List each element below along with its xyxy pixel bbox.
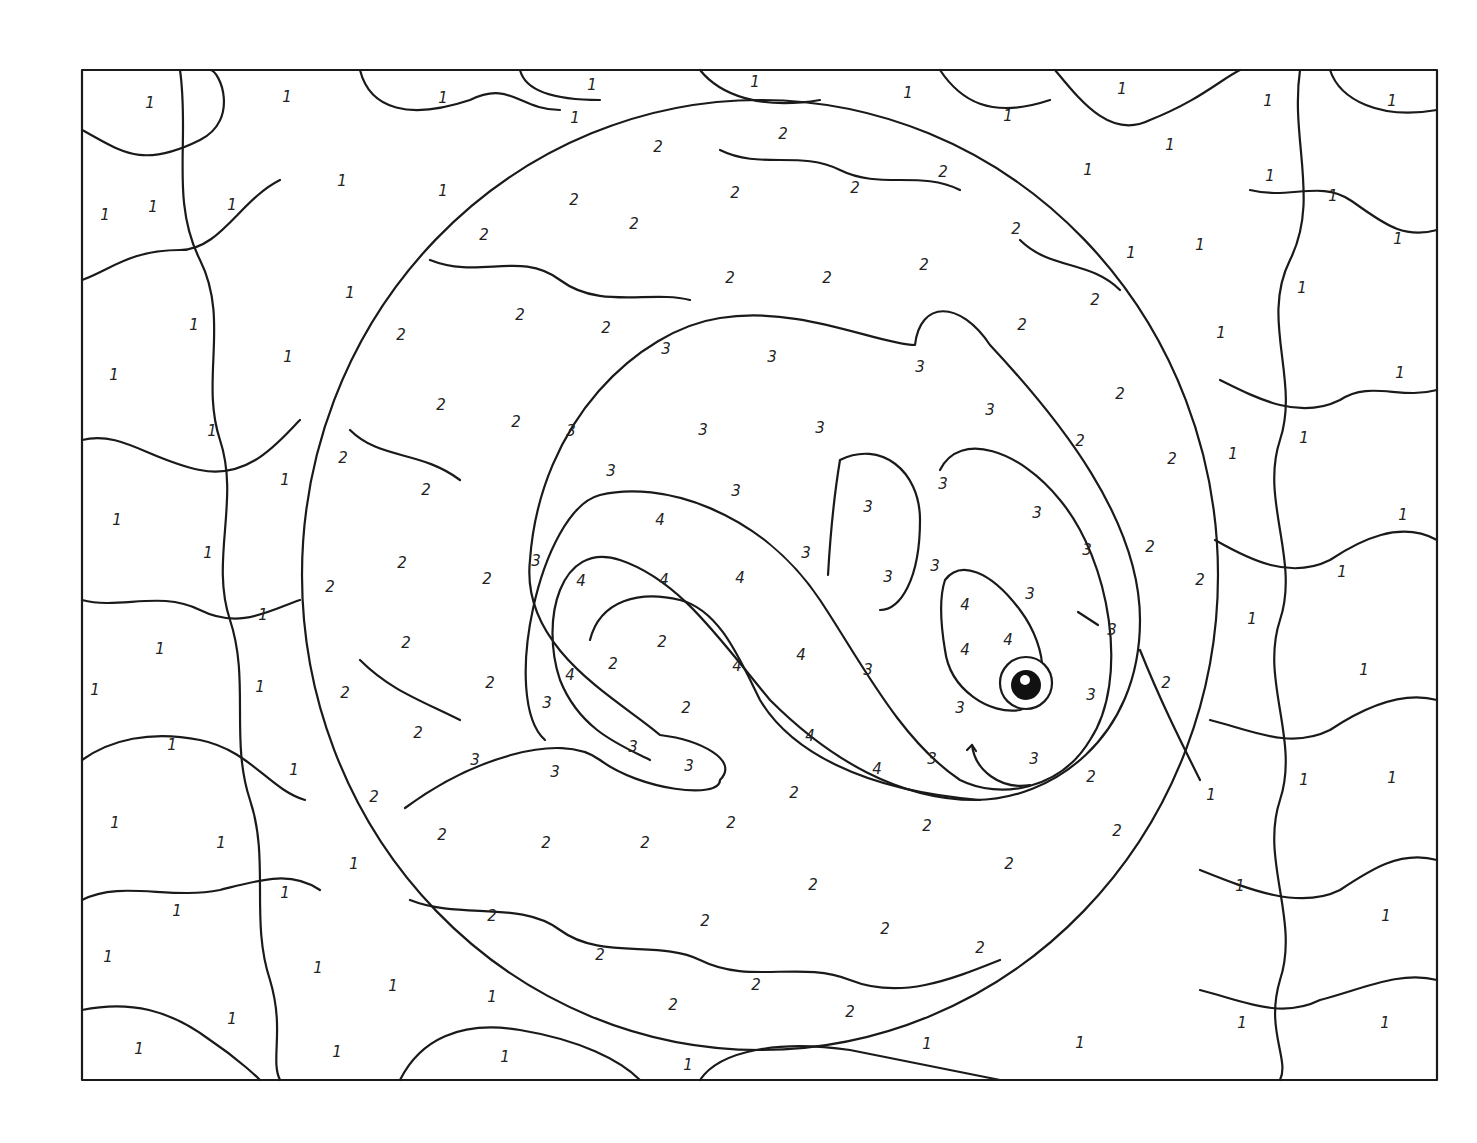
snake-inner-tail (590, 596, 980, 800)
region-number-label: 3 (470, 751, 480, 769)
region-number-label: 3 (1029, 750, 1039, 768)
region-number-label: 1 (438, 89, 448, 107)
region-number-label: 2 (325, 578, 335, 596)
region-number-label: 2 (629, 215, 639, 233)
region-number-label: 2 (681, 699, 691, 717)
region-number-label: 3 (938, 475, 948, 493)
region-number-label: 1 (1265, 167, 1275, 185)
region-number-label: 2 (511, 413, 521, 431)
region-number-label: 1 (1083, 161, 1093, 179)
region-number-label: 2 (808, 876, 818, 894)
region-number-label: 1 (227, 196, 237, 214)
region-number-label: 4 (960, 596, 970, 614)
region-number-label: 2 (751, 976, 761, 994)
region-number-label: 2 (1195, 571, 1205, 589)
region-number-label: 3 (815, 419, 825, 437)
region-number-label: 1 (1075, 1034, 1085, 1052)
region-number-label: 1 (1206, 786, 1216, 804)
region-number-label: 1 (903, 84, 913, 102)
region-number-label: 3 (985, 401, 995, 419)
page-frame (82, 70, 1437, 1080)
region-number-label: 1 (1387, 769, 1397, 787)
region-number-label: 3 (1107, 621, 1117, 639)
region-number-label: 3 (863, 661, 873, 679)
region-number-label: 1 (280, 471, 290, 489)
region-number-label: 2 (396, 326, 406, 344)
region-number-label: 2 (668, 996, 678, 1014)
snake-body-outline (405, 311, 1140, 808)
region-number-label: 1 (110, 814, 120, 832)
region-number-label: 3 (531, 552, 541, 570)
region-number-label: 2 (822, 269, 832, 287)
region-number-label: 2 (1075, 432, 1085, 450)
region-number-label: 2 (1145, 538, 1155, 556)
region-number-label: 4 (655, 511, 665, 529)
region-number-label: 1 (1299, 771, 1309, 789)
region-number-label: 1 (155, 640, 165, 658)
region-number-label: 4 (796, 646, 806, 664)
region-number-label: 3 (1032, 504, 1042, 522)
region-number-label: 2 (485, 674, 495, 692)
region-number-label: 1 (1299, 429, 1309, 447)
region-number-label: 1 (1228, 445, 1238, 463)
region-number-label: 3 (915, 358, 925, 376)
region-number-label: 2 (338, 449, 348, 467)
region-number-label: 4 (872, 760, 882, 778)
region-number-label: 1 (145, 94, 155, 112)
region-number-label: 4 (732, 657, 742, 675)
region-number-label: 2 (657, 633, 667, 651)
region-number-label: 2 (1017, 316, 1027, 334)
region-number-label: 3 (801, 544, 811, 562)
region-number-label: 1 (922, 1035, 932, 1053)
region-number-label: 1 (216, 834, 226, 852)
region-number-label: 1 (1337, 563, 1347, 581)
region-number-label: 1 (1381, 907, 1391, 925)
region-number-label: 1 (337, 172, 347, 190)
region-number-label: 1 (1359, 661, 1369, 679)
region-number-label: 1 (570, 109, 580, 127)
region-number-label: 1 (1235, 877, 1245, 895)
region-number-label: 1 (148, 198, 158, 216)
region-number-label: 3 (863, 498, 873, 516)
region-number-label: 3 (542, 694, 552, 712)
region-number-label: 1 (750, 73, 760, 91)
region-number-label: 3 (927, 750, 937, 768)
region-number-label: 2 (595, 946, 605, 964)
region-number-label: 1 (1393, 230, 1403, 248)
region-number-label: 3 (1082, 541, 1092, 559)
region-number-label: 1 (1395, 364, 1405, 382)
region-number-label: 2 (725, 269, 735, 287)
region-number-label: 1 (109, 366, 119, 384)
region-number-label: 1 (282, 88, 292, 106)
region-number-label: 2 (730, 184, 740, 202)
region-number-label: 1 (103, 948, 113, 966)
region-number-label: 3 (1086, 686, 1096, 704)
region-number-label: 2 (789, 784, 799, 802)
region-number-label: 2 (413, 724, 423, 742)
region-number-label: 1 (313, 959, 323, 977)
region-number-label: 2 (1090, 291, 1100, 309)
snake-inner-spiral (526, 449, 1112, 790)
region-number-label: 2 (880, 920, 890, 938)
region-number-label: 1 (1263, 92, 1273, 110)
region-number-label: 1 (167, 736, 177, 754)
region-number-label: 2 (482, 570, 492, 588)
region-number-label: 1 (388, 977, 398, 995)
region-number-label: 1 (1216, 324, 1226, 342)
region-number-label: 3 (684, 757, 694, 775)
region-number-label: 1 (487, 988, 497, 1006)
region-number-label: 1 (207, 422, 217, 440)
region-number-label: 1 (345, 284, 355, 302)
region-number-label: 1 (1247, 610, 1257, 628)
region-number-label: 2 (401, 634, 411, 652)
region-number-label: 2 (1011, 220, 1021, 238)
region-number-label: 1 (112, 511, 122, 529)
region-number-label: 1 (1003, 107, 1013, 125)
region-number-label: 2 (653, 138, 663, 156)
region-number-label: 2 (1086, 768, 1096, 786)
coloring-page: 1111111111111111111111111111111111111111… (0, 0, 1477, 1143)
region-number-label: 3 (955, 699, 965, 717)
region-number-label: 1 (587, 76, 597, 94)
region-number-label: 2 (515, 306, 525, 324)
region-number-label: 1 (280, 884, 290, 902)
